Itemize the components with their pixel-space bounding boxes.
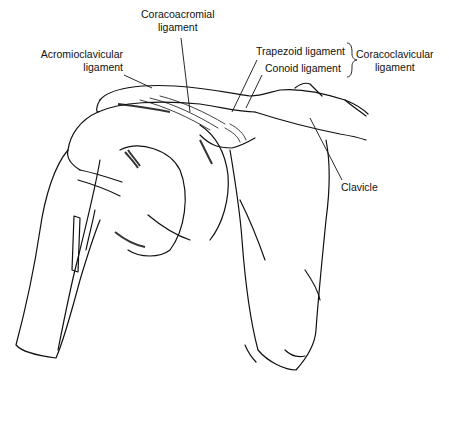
label-line: ligament bbox=[35, 61, 123, 74]
label-line: Coracoacromial bbox=[141, 8, 215, 21]
label-conoid-ligament: Conoid ligament bbox=[265, 62, 341, 75]
label-clavicle: Clavicle bbox=[341, 181, 378, 194]
clavicle-outline bbox=[255, 112, 366, 140]
humeral-head-outline bbox=[68, 112, 98, 170]
leader-coracoacromial bbox=[181, 38, 190, 112]
humerus-outline bbox=[16, 150, 100, 358]
coracoid-outline bbox=[200, 135, 255, 148]
scapula-outline bbox=[230, 140, 329, 370]
label-coracoacromial-ligament: Coracoacromial ligament bbox=[141, 8, 215, 34]
leader-clavicle bbox=[310, 118, 342, 180]
leader-trapezoid bbox=[232, 60, 257, 112]
label-line: Acromioclavicular bbox=[35, 48, 123, 61]
label-line: ligament bbox=[141, 21, 215, 34]
label-line: ligament bbox=[356, 61, 434, 74]
shoulder-ligament-diagram: Coracoacromial ligament Acromioclavicula… bbox=[0, 0, 449, 425]
label-acromioclavicular-ligament: Acromioclavicular ligament bbox=[35, 48, 123, 74]
label-line: Coracoclavicular bbox=[356, 48, 434, 61]
label-coracoclavicular-ligament: Coracoclavicular ligament bbox=[356, 48, 434, 74]
label-trapezoid-ligament: Trapezoid ligament bbox=[256, 45, 345, 58]
leader-conoid bbox=[246, 75, 262, 108]
